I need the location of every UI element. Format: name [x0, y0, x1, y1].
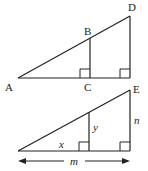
arrow-right-head-icon: [122, 158, 130, 164]
hypotenuse: [18, 90, 130, 151]
label-m: m: [70, 155, 78, 167]
bottom-diagram: x y n m: [18, 90, 140, 167]
similar-triangles-figure: A B C D E x y n m: [0, 0, 148, 171]
right-angle-marker-inner: [79, 142, 89, 151]
label-x: x: [58, 138, 64, 150]
label-E: E: [133, 83, 140, 95]
top-diagram: A B C D E: [5, 1, 140, 95]
right-angle-marker-C: [80, 69, 90, 78]
label-D: D: [128, 1, 136, 13]
label-C: C: [84, 81, 91, 93]
arrow-left-head-icon: [18, 158, 26, 164]
label-n: n: [134, 114, 140, 126]
label-B: B: [84, 25, 91, 37]
hypotenuse-AD: [18, 16, 130, 78]
right-angle-marker-E: [120, 69, 130, 78]
label-A: A: [5, 81, 13, 93]
right-angle-marker-outer: [120, 142, 130, 151]
label-y: y: [92, 121, 98, 133]
